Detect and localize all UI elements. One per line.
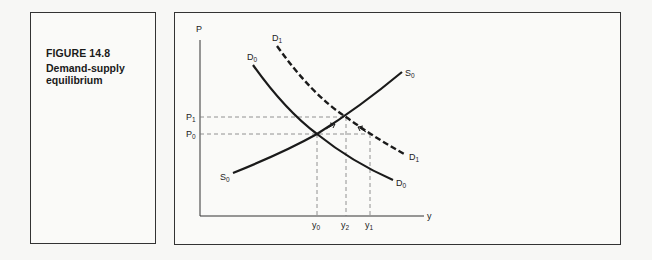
- curve-label-s0-top: S0: [405, 68, 415, 79]
- tick-label-p0: P0: [186, 129, 196, 140]
- curve-label-s0-bottom: S0: [220, 172, 230, 183]
- curve-label-d0-top: D0: [247, 52, 258, 63]
- supply-curve-s0: [233, 72, 402, 173]
- axis-label-p: P: [196, 24, 202, 34]
- guide-lines: [200, 117, 370, 216]
- tick-label-y0: y0: [312, 220, 321, 231]
- arrow-along-supply-icon: [326, 123, 335, 129]
- supply-demand-diagram: P y P1 P0 y0 y2 y1 D1 D0 S0 S0 D1 D0: [0, 0, 652, 260]
- demand-curve-d1: [277, 46, 406, 155]
- curve-label-d0-bottom: D0: [396, 178, 407, 189]
- tick-label-p1: P1: [186, 112, 196, 123]
- curve-label-d1-top: D1: [272, 33, 283, 44]
- tick-label-y2: y2: [341, 220, 350, 231]
- axis-label-y: y: [427, 211, 432, 221]
- curve-label-d1-bottom: D1: [409, 152, 420, 163]
- demand-curve-d0: [253, 65, 393, 180]
- tick-label-y1: y1: [365, 220, 374, 231]
